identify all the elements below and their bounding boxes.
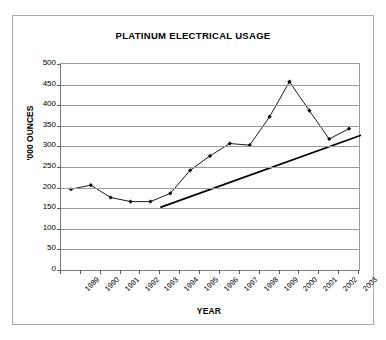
y-axis-tick bbox=[57, 146, 61, 147]
gridline bbox=[61, 229, 359, 230]
y-axis-tick-label: 500 bbox=[43, 59, 56, 67]
x-axis-tick-label: 1999 bbox=[281, 275, 299, 293]
x-axis-tick bbox=[358, 270, 359, 274]
data-point-marker bbox=[128, 200, 132, 204]
data-point-marker bbox=[347, 127, 351, 131]
y-axis-tick-label: 150 bbox=[43, 203, 56, 211]
y-axis-tick-label: 200 bbox=[43, 183, 56, 191]
x-axis-tick-label: 1989 bbox=[83, 275, 101, 293]
y-axis-tick-labels: 500450400350300250200150100500 bbox=[23, 63, 56, 269]
chart-title: PLATINUM ELECTRICAL USAGE bbox=[13, 30, 373, 41]
x-axis-tick bbox=[338, 270, 339, 274]
y-axis-tick bbox=[57, 188, 61, 189]
x-axis-tick bbox=[318, 270, 319, 274]
gridline bbox=[61, 105, 359, 106]
gridline bbox=[61, 167, 359, 168]
x-axis-tick-label: 1990 bbox=[103, 275, 121, 293]
x-axis-tick-label: 1997 bbox=[242, 275, 260, 293]
x-axis-tick bbox=[60, 270, 61, 274]
x-axis-tick-label: 1994 bbox=[182, 275, 200, 293]
gridline bbox=[61, 188, 359, 189]
series-line bbox=[71, 82, 349, 202]
x-axis-tick-label: 2002 bbox=[341, 275, 359, 293]
x-axis-tick bbox=[120, 270, 121, 274]
y-axis-tick bbox=[57, 229, 61, 230]
y-axis-tick bbox=[57, 105, 61, 106]
gridline bbox=[61, 85, 359, 86]
x-axis-tick-label: 2000 bbox=[301, 275, 319, 293]
x-axis-tick-label: 1993 bbox=[162, 275, 180, 293]
data-point-marker bbox=[109, 195, 113, 199]
plot-area bbox=[60, 63, 360, 271]
x-axis-tick bbox=[199, 270, 200, 274]
y-axis-tick bbox=[57, 208, 61, 209]
x-axis-tick bbox=[298, 270, 299, 274]
y-axis-tick-label: 250 bbox=[43, 162, 56, 170]
data-point-marker bbox=[89, 183, 93, 187]
x-axis-tick bbox=[179, 270, 180, 274]
x-axis-tick bbox=[139, 270, 140, 274]
y-axis-tick-label: 450 bbox=[43, 80, 56, 88]
y-axis-tick-label: 0 bbox=[52, 265, 56, 273]
x-axis-tick bbox=[80, 270, 81, 274]
x-axis-tick bbox=[259, 270, 260, 274]
gridline bbox=[61, 146, 359, 147]
y-axis-tick-label: 300 bbox=[43, 141, 56, 149]
x-axis-tick bbox=[279, 270, 280, 274]
x-axis-tick bbox=[100, 270, 101, 274]
x-axis-tick-labels: 1989199019911992199319941995199619971998… bbox=[60, 275, 359, 309]
x-axis-tick-label: 1992 bbox=[142, 275, 160, 293]
x-axis-tick-label: 2001 bbox=[321, 275, 339, 293]
x-axis-tick bbox=[239, 270, 240, 274]
y-axis-tick-label: 350 bbox=[43, 121, 56, 129]
y-axis-tick-label: 100 bbox=[43, 224, 56, 232]
y-axis-tick bbox=[57, 167, 61, 168]
y-axis-tick-label: 400 bbox=[43, 100, 56, 108]
chart-frame: PLATINUM ELECTRICAL USAGE '000 OUNCES 50… bbox=[12, 15, 374, 325]
x-axis-tick-label: 1996 bbox=[222, 275, 240, 293]
x-axis-tick-label: 1998 bbox=[262, 275, 280, 293]
x-axis-tick-label: 2003 bbox=[361, 275, 379, 293]
y-axis-tick-label: 50 bbox=[47, 244, 56, 252]
y-axis-tick bbox=[57, 249, 61, 250]
gridline bbox=[61, 249, 359, 250]
x-axis-tick-label: 1991 bbox=[123, 275, 141, 293]
y-axis-tick bbox=[57, 126, 61, 127]
x-axis-tick bbox=[159, 270, 160, 274]
x-axis-title: YEAR bbox=[60, 306, 358, 316]
y-axis-tick bbox=[57, 85, 61, 86]
y-axis-tick bbox=[57, 64, 61, 65]
data-point-marker bbox=[228, 141, 232, 145]
x-axis-tick-label: 1995 bbox=[202, 275, 220, 293]
gridline bbox=[61, 208, 359, 209]
data-point-marker bbox=[148, 200, 152, 204]
gridline bbox=[61, 126, 359, 127]
x-axis-tick bbox=[219, 270, 220, 274]
